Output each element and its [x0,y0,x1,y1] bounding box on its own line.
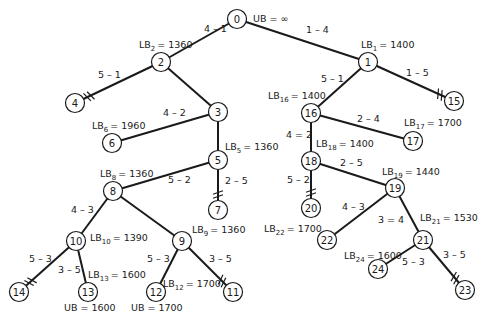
tree-node-18: 18 [302,152,321,171]
tree-node-23: 23 [456,281,475,300]
lb-prefix: LB [264,223,276,234]
node-id-label: 3 [215,107,221,118]
lower-bound-label-16: LB16= 1400 [268,90,326,104]
edge-label-1-16: 5 – 1 [321,73,344,84]
edge-label-8-10: 4 – 3 [71,204,94,215]
lb-prefix: LB [139,39,151,50]
lb-value: = 1700 [427,117,462,128]
lb-subscript: 21 [432,218,441,226]
node-id-label: 8 [110,186,116,197]
lb-prefix: LB [420,212,432,223]
lower-bound-label-12: LB12= 1700 [163,278,221,292]
lower-bound-label-1: LB1= 1400 [361,39,414,53]
lb-subscript: 13 [100,275,109,283]
node-id-label: 21 [417,235,430,246]
node-id-label: 0 [234,14,240,25]
lb-prefix: LB [163,278,175,289]
lb-subscript: 19 [394,172,403,180]
tree-node-21: 21 [414,231,433,250]
lb-subscript: 9 [204,230,208,238]
lower-bound-label-9: LB9= 1360 [192,224,245,238]
tree-node-11: 11 [224,283,243,302]
lower-bound-label-10: LB10= 1390 [90,232,148,246]
upper-bound-label-12: UB = 1700 [131,302,183,313]
tree-node-2: 2 [152,53,171,72]
lb-value: = 1440 [405,166,440,177]
node-id-label: 23 [459,285,472,296]
node-id-label: 12 [150,287,163,298]
tree-node-16: 16 [302,104,321,123]
node-id-label: 20 [305,203,318,214]
tree-node-8: 8 [104,182,123,201]
edge-label-10-14: 5 – 3 [29,253,52,264]
lower-bound-label-21: LB21= 1530 [420,212,478,226]
lb-prefix: LB [344,250,356,261]
lb-subscript: 22 [276,229,285,237]
lower-bound-label-19: LB19= 1440 [382,166,440,180]
edge-label-1-15: 1 – 5 [406,67,429,78]
bounds-layer: UB = ∞ LB1= 1400LB2= 1360LB5= 1360LB6= 1… [64,13,478,313]
lower-bound-label-17: LB17= 1700 [404,117,462,131]
tree-node-10: 10 [67,232,86,251]
edge-label-10-13: 3 – 5 [58,264,81,275]
node-id-label: 1 [365,57,371,68]
lb-subscript: 1 [373,45,377,53]
node-id-label: 2 [158,57,164,68]
node-id-label: 18 [305,156,318,167]
lb-value: = 1400 [291,90,326,101]
tree-node-4: 4 [66,94,85,113]
lb-value: = 1360 [243,141,278,152]
pruned-marker-icon [441,90,442,101]
lb-prefix: LB [382,166,394,177]
lb-value: = 1530 [443,212,478,223]
edge-label-5-8: 5 – 2 [168,174,191,185]
tree-node-0: 0 [228,10,247,29]
lb-subscript: 8 [112,174,116,182]
edge-label-18-19: 2 – 5 [340,157,363,168]
lower-bound-label-6: LB6= 1960 [92,120,145,134]
edge-label-0-2: 4 – 1 [204,23,227,34]
lb-prefix: LB [92,120,104,131]
node-id-label: 17 [407,136,420,147]
lb-subscript: 24 [356,256,365,264]
node-id-label: 10 [70,236,83,247]
lb-value: = 1360 [157,39,192,50]
lower-bound-label-22: LB22= 1700 [264,223,322,237]
lower-bound-label-2: LB2= 1360 [139,39,192,53]
tree-node-3: 3 [209,103,228,122]
node-id-label: 9 [179,236,185,247]
tree-node-14: 14 [10,283,29,302]
lb-prefix: LB [268,90,280,101]
tree-node-6: 6 [103,134,122,153]
root-upper-bound: UB = ∞ [253,13,288,24]
node-id-label: 13 [82,287,95,298]
lb-value: = 1600 [367,250,402,261]
tree-node-9: 9 [173,232,192,251]
node-id-label: 6 [109,138,115,149]
lb-prefix: LB [100,168,112,179]
lb-subscript: 6 [104,126,109,134]
edge-label-9-11: 3 – 5 [209,253,232,264]
lower-bound-label-8: LB8= 1360 [100,168,153,182]
edge-label-5-7: 2 – 5 [225,175,248,186]
edge-2-3 [161,62,218,112]
lb-value: = 1360 [118,168,153,179]
lb-subscript: 17 [416,123,425,131]
tree-node-15: 15 [445,92,464,111]
edge-label-0-1: 1 – 4 [306,24,329,35]
lb-subscript: 12 [175,284,184,292]
lb-subscript: 10 [102,238,111,246]
tree-node-1: 1 [359,53,378,72]
lb-prefix: LB [361,39,373,50]
lb-prefix: LB [192,224,204,235]
lb-value: = 1600 [111,269,146,280]
node-id-label: 24 [372,264,385,275]
lb-subscript: 2 [151,45,155,53]
lb-prefix: LB [316,138,328,149]
tree-node-5: 5 [209,151,228,170]
tree-node-7: 7 [209,201,228,220]
lb-prefix: LB [90,232,102,243]
lb-value: = 1960 [110,120,145,131]
edge-label-21-24: 5 – 3 [402,256,425,267]
node-id-label: 16 [305,108,318,119]
